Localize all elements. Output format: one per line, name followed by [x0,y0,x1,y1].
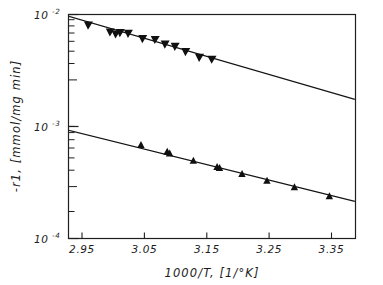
data-point-marker [171,43,180,51]
data-point-marker [181,48,190,56]
lower-series-markers [137,141,333,199]
y-tick-label-1e-4: 10 -4 [34,231,60,245]
y-tick-label-1e-2: 10 -2 [34,7,60,21]
x-axis-tick-labels: 2.95 3.05 3.15 3.25 3.35 [69,243,344,255]
svg-text:-2: -2 [52,7,60,16]
svg-text:-4: -4 [52,231,60,240]
x-tick-label-2: 3.15 [194,243,220,255]
x-tick-label-1: 3.05 [132,243,158,255]
data-point-marker [195,54,204,62]
x-tick-label-3: 3.25 [256,243,282,255]
y-tick-label-1e-3: 10 -3 [34,119,60,133]
data-point-marker [137,141,144,148]
svg-text:10: 10 [34,9,49,21]
lower-series-regression-line [70,131,355,202]
svg-text:10: 10 [34,233,49,245]
plot-data-area [70,16,355,201]
x-axis-ticks [82,233,332,239]
y-axis-major-ticks [69,15,79,239]
data-point-marker [208,56,217,64]
x-tick-label-4: 3.35 [319,243,345,255]
x-axis-title: 1000/T, [1/°K] [165,266,260,280]
y-axis-tick-labels: 10 -2 10 -3 10 -4 [34,7,60,245]
plot-frame [69,15,356,239]
lower-series-fit-line [70,131,355,202]
svg-text:-3: -3 [52,119,60,128]
x-tick-label-0: 2.95 [69,243,95,255]
y-axis-title: -r1, [mmol/mg min] [9,60,23,193]
data-point-marker [84,22,93,30]
y-axis-minor-ticks [69,20,78,212]
upper-series-markers [84,22,217,64]
arrhenius-plot-figure: 10 -2 10 -3 10 -4 2.95 3.05 3.15 3.25 3.… [0,0,383,285]
svg-text:10: 10 [34,121,49,133]
